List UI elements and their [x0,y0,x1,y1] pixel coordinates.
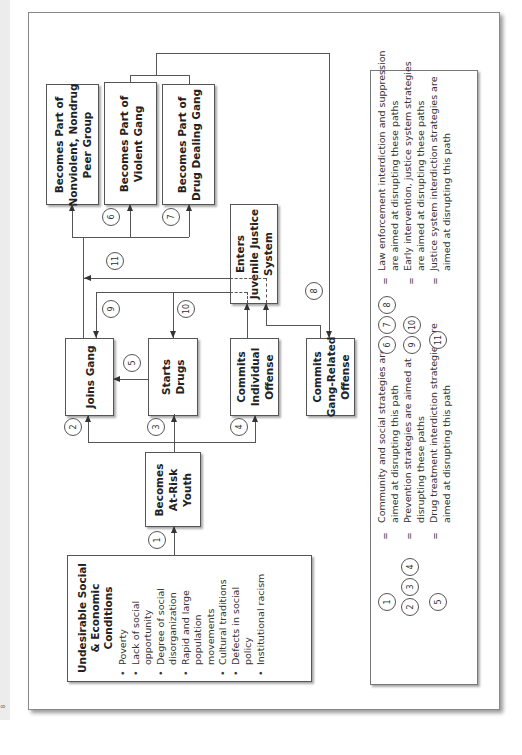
node-violent-gang: Becomes Part of Violent Gang [104,82,157,205]
node-label-line: Nonviolent, Nondrug [66,83,80,206]
node-label-line: Becomes Part of [117,95,131,192]
node-joins-gang: Joins Gang [65,338,114,416]
node-gang-related-offense: Commits Gang-Related Offense [306,338,355,416]
legend-box: 1 2 3 4 5 = = = Community and social str… [370,70,478,685]
marker-1: 1 [148,531,166,549]
marker-8: 8 [305,282,323,300]
arrow-head-icon [170,331,176,338]
arrow-head-icon [326,331,332,338]
legend-equals: = [380,277,390,285]
arrow-head-icon [171,415,177,422]
marker-2: 2 [64,418,82,436]
marker-6: 6 [102,208,120,226]
arrow-head-icon [127,204,133,211]
conditions-item: Rapid and large population movements [180,559,218,677]
page-edge-strip: 8 [0,0,10,720]
arrow-head-icon [69,204,75,211]
legend-marker-9: 9 [403,336,421,354]
edge-gang-to-jj-h [266,325,320,326]
node-drug-dealing-gang: Becomes Part of Drug Dealing Gang [162,84,215,205]
node-label-line: System [261,209,275,299]
arrow-head-icon [186,204,192,211]
legend-marker-10: 10 [403,316,421,334]
conditions-item: Cultural traditions [217,559,230,677]
conditions-list: Poverty Lack of social opportunity Degre… [117,559,267,677]
legend-equals: = [430,277,440,285]
node-nonviolent-peer-group: Becomes Part of Nonviolent, Nondrug Peer… [46,84,99,205]
legend-marker-11: 11 [429,331,447,349]
node-label-line: Juvenile Justice [247,209,261,299]
legend-marker-2: 2 [401,598,419,616]
marker-5: 5 [123,354,141,372]
legend-equals: = [430,532,440,540]
conditions-item: Poverty [117,559,130,677]
node-label-line: Drug Dealing Gang [189,88,203,200]
conditions-item: Degree of social disorganization [155,559,180,677]
arrow-head-icon [263,303,269,310]
edge-outcomes-bar [72,237,189,238]
edge-8-top [156,53,330,54]
legend-marker-7: 7 [378,316,396,334]
legend-marker-6: 6 [378,336,396,354]
node-label-line: Commits [234,348,248,407]
arrow-head-icon [84,275,91,281]
legend-text-2: Law enforcement interdiction and suppres… [375,51,453,271]
edge-gang-join-up [156,53,157,75]
conditions-title-line: Conditions [102,559,115,677]
edge-gang-to-jj-v [320,325,321,338]
legend-equals: = [380,532,390,540]
node-label-line: Offense [338,337,352,418]
marker-4: 4 [230,418,248,436]
node-label-line: Individual [248,348,262,407]
node-label-line: Becomes Part of [175,88,189,200]
legend-equals: = [406,277,416,285]
page-mark: 8 [0,705,6,709]
arrow-head-icon [252,415,258,422]
node-label-line: Drugs [173,359,187,395]
legend-marker-3: 3 [401,578,419,596]
node-juvenile-justice: Enters Juvenile Justice System [230,204,278,304]
node-label-line: Peer Group [80,83,94,206]
node-label-line: Becomes [152,463,166,516]
legend-marker-4: 4 [401,558,419,576]
node-starts-drugs: Starts Drugs [148,338,198,416]
legend-marker-5: 5 [429,593,447,611]
node-social-economic-conditions: Undesirable Social & Economic Conditions… [67,555,312,682]
legend-marker-1: 1 [378,593,396,611]
legend-equals: = [404,532,414,540]
conditions-item: Institutional racism [255,559,268,677]
arrow-head-icon [93,331,99,338]
legend-marker-8: 8 [378,296,396,314]
node-label-line: Starts [159,359,173,395]
conditions-item: Defects in social policy [230,559,255,677]
node-label-line: Gang-Related [324,337,338,418]
edge-dashed [266,278,267,303]
edge-dashed [230,278,266,279]
node-label-line: Commits [310,337,324,418]
arrow-head-icon [85,415,91,422]
arrow-head-icon [244,303,250,310]
node-label-line: At-Risk [166,463,180,516]
node-at-risk-youth: Becomes At-Risk Youth [145,452,201,527]
marker-11: 11 [106,252,124,270]
node-label-line: Violent Gang [131,95,145,192]
conditions-title-line: & Economic [89,559,102,677]
conditions-item: Lack of social opportunity [130,559,155,677]
node-label-line: Youth [180,463,194,516]
conditions-title-line: Undesirable Social [76,559,89,677]
edge-gang-join [130,75,189,76]
node-individual-offense: Commits Individual Offense [230,338,279,416]
node-label-line: Becomes Part of [52,83,66,206]
arrow-head-icon [171,526,177,533]
marker-10: 10 [177,300,195,318]
edge-dashed [247,292,248,303]
marker-3: 3 [147,418,165,436]
edge-9-10 [96,292,230,293]
node-label-line: Offense [262,348,276,407]
arrow-head-icon [113,376,120,382]
node-label-line: Enters [233,209,247,299]
edge-gang-join-r [189,75,190,84]
marker-7: 7 [162,208,180,226]
edge-11 [84,278,230,279]
marker-9: 9 [102,300,120,318]
